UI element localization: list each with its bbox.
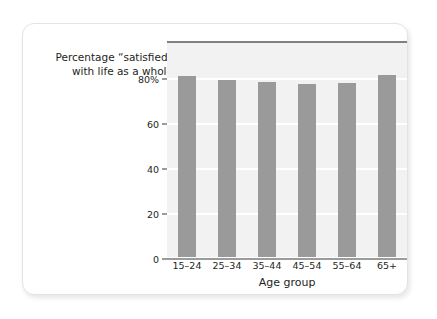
- bar: [298, 84, 316, 257]
- x-axis-tick-labels: 15–2425–3435–4445–5455–6465+: [167, 260, 407, 274]
- bar: [258, 82, 276, 258]
- x-axis-tick-label: 25–34: [213, 260, 242, 271]
- x-axis-tick-label: 15–24: [173, 260, 202, 271]
- y-axis-tick-label: 20: [147, 209, 159, 220]
- x-axis-tick-label: 55–64: [333, 260, 362, 271]
- bar: [218, 80, 236, 257]
- x-axis-tick-label: 35–44: [253, 260, 282, 271]
- bar: [178, 76, 196, 257]
- y-axis-tick-label: 40: [147, 164, 159, 175]
- y-axis-tick-label: 60: [147, 119, 159, 130]
- bars-layer: [167, 43, 407, 257]
- figure-card: Percentage “satisfied” with life as a wh…: [22, 23, 408, 295]
- y-axis-tick-label: 0: [153, 254, 159, 265]
- x-axis-title: Age group: [167, 276, 407, 289]
- y-axis-tick-label: 80%: [138, 74, 159, 85]
- bar: [338, 83, 356, 257]
- x-axis-tick-label: 65+: [377, 260, 397, 271]
- bar: [378, 75, 396, 257]
- plot-area: 020406080%: [167, 41, 407, 257]
- x-axis-tick-label: 45–54: [293, 260, 322, 271]
